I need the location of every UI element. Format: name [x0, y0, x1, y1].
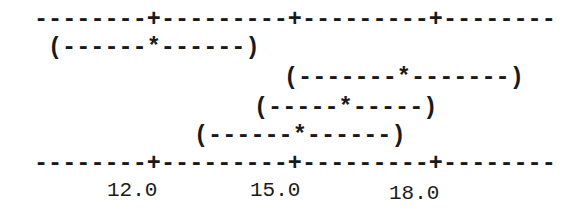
interval-row-3: (-----*-----)	[254, 96, 437, 120]
confidence-interval-plot: --------+---------+---------+-------- (-…	[0, 0, 576, 210]
interval-row-2: (-------*-------)	[284, 66, 524, 90]
interval-row-1: (------*------)	[48, 36, 260, 60]
bottom-axis-line: --------+---------+---------+--------	[34, 152, 556, 176]
top-axis-line: --------+---------+---------+--------	[34, 8, 556, 32]
tick-label-15: 15.0	[250, 180, 300, 201]
tick-label-18: 18.0	[389, 183, 439, 204]
interval-row-4: (------*------)	[194, 124, 406, 148]
tick-label-12: 12.0	[107, 180, 157, 201]
